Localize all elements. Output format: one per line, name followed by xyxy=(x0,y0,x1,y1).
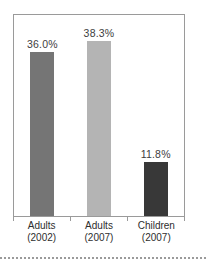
value-label-children-2007: 11.8% xyxy=(141,148,171,160)
dotted-separator xyxy=(0,257,208,259)
category-label-line2: (2007) xyxy=(128,232,185,244)
bar-children-2007: 11.8% xyxy=(144,162,168,216)
bar-slot-adults-2007: 38.3% xyxy=(71,15,128,216)
category-label-line1: Children xyxy=(128,220,185,232)
category-label-line1: Adults xyxy=(70,220,127,232)
category-label-line2: (2002) xyxy=(13,232,70,244)
category-label-adults-2007: Adults (2007) xyxy=(70,220,127,244)
value-label-adults-2007: 38.3% xyxy=(84,27,115,39)
category-label-line2: (2007) xyxy=(70,232,127,244)
x-axis-labels: Adults (2002) Adults (2007) Children (20… xyxy=(13,220,185,244)
category-label-children-2007: Children (2007) xyxy=(128,220,185,244)
bar-slot-adults-2002: 36.0% xyxy=(14,15,71,216)
value-label-adults-2002: 36.0% xyxy=(27,38,58,50)
category-label-adults-2002: Adults (2002) xyxy=(13,220,70,244)
bar-adults-2002: 36.0% xyxy=(30,52,54,217)
bar-chart-figure: 36.0% 38.3% 11.8% Adults (2002) Adults (… xyxy=(0,0,208,266)
bar-slot-children-2007: 11.8% xyxy=(127,15,184,216)
plot-area: 36.0% 38.3% 11.8% xyxy=(13,14,185,217)
category-label-line1: Adults xyxy=(13,220,70,232)
bar-adults-2007: 38.3% xyxy=(87,41,111,216)
